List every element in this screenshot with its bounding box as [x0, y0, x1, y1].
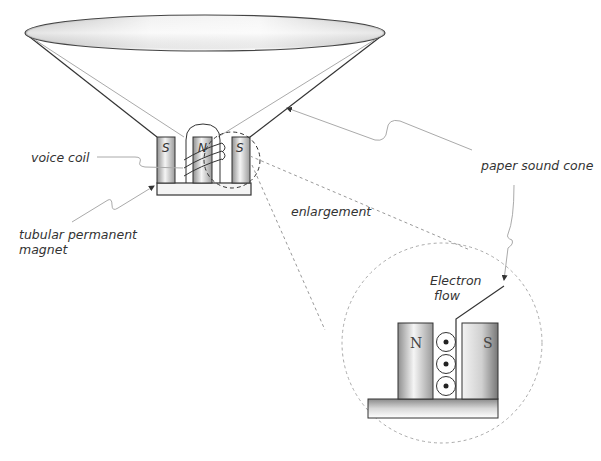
- enlargement-projection: [250, 156, 470, 330]
- enlarged-view: N S: [368, 286, 504, 418]
- enlarged-pole-n: N: [410, 335, 422, 351]
- label-flow: flow: [434, 288, 461, 303]
- magnet-leader: [72, 186, 154, 222]
- label-magnet-line2: magnet: [19, 242, 68, 257]
- electron-leader: [504, 185, 514, 280]
- label-electron: Electron: [430, 273, 482, 288]
- speaker-magnet-assembly: S N S: [157, 124, 260, 195]
- leader-lines: [72, 108, 514, 280]
- label-enlargement: enlargement: [291, 204, 372, 219]
- magnet-base: [157, 183, 251, 195]
- label-paper-sound-cone: paper sound cone: [480, 158, 594, 173]
- label-voice-coil: voice coil: [31, 150, 90, 165]
- enlarged-base: [368, 399, 498, 418]
- paper-sound-cone: [25, 15, 385, 137]
- pole-label-n-center: N: [198, 141, 207, 155]
- cone-leader: [287, 108, 472, 150]
- pole-label-s-left: S: [162, 141, 170, 155]
- enlarged-magnet-s: [462, 323, 498, 399]
- label-magnet-line1: tubular permanent: [19, 227, 138, 242]
- speaker-diagram: S N S N S: [0, 0, 601, 461]
- enlarged-pole-s: S: [483, 335, 493, 351]
- pole-label-s-right: S: [236, 141, 244, 155]
